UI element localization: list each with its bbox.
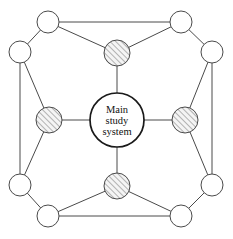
center-label-line-1: Main: [106, 104, 129, 115]
subsystem-north[interactable]: [104, 40, 130, 66]
network-diagram: Mainstudysystem: [0, 0, 233, 239]
peripheral-top-left[interactable]: [37, 11, 59, 33]
center-node-layer: Mainstudysystem: [90, 93, 144, 147]
peripheral-left-top[interactable]: [9, 41, 31, 63]
peripheral-left-bottom[interactable]: [9, 174, 31, 196]
peripheral-top-right[interactable]: [170, 11, 192, 33]
subsystem-east[interactable]: [172, 107, 198, 133]
subsystem-south[interactable]: [104, 173, 130, 199]
network-diagram-canvas: Mainstudysystem: [0, 0, 233, 239]
center-label-line-3: system: [102, 126, 131, 137]
peripheral-bottom-left[interactable]: [37, 205, 59, 227]
peripheral-right-top[interactable]: [201, 41, 223, 63]
peripheral-bottom-right[interactable]: [170, 205, 192, 227]
center-label-line-2: study: [106, 115, 130, 126]
peripheral-right-bottom[interactable]: [201, 174, 223, 196]
subsystem-west[interactable]: [36, 107, 62, 133]
